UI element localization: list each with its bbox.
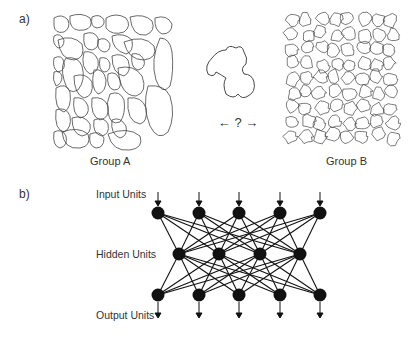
network-node xyxy=(274,207,287,220)
input-units-label: Input Units xyxy=(96,188,146,200)
output-units-label: Output Units xyxy=(96,309,154,321)
group-a-blobs xyxy=(50,14,175,150)
network-node xyxy=(152,207,165,220)
network-node xyxy=(314,289,327,302)
network-node xyxy=(193,289,206,302)
network-node xyxy=(193,207,206,220)
network-node xyxy=(254,248,267,261)
diagram-canvas: ← ? → xyxy=(0,0,419,339)
network-node xyxy=(294,248,307,261)
panel-b-label: b) xyxy=(19,187,30,201)
network-node xyxy=(233,289,246,302)
query-shape xyxy=(207,46,255,97)
group-b-blobs xyxy=(283,12,401,146)
network-node xyxy=(152,289,165,302)
network-node xyxy=(274,289,287,302)
network-node xyxy=(173,248,186,261)
network-node xyxy=(233,207,246,220)
network-node xyxy=(314,207,327,220)
group-a-caption: Group A xyxy=(90,155,130,167)
network-node xyxy=(213,248,226,261)
query-arrows: ← ? → xyxy=(218,115,258,130)
hidden-units-label: Hidden Units xyxy=(96,248,156,260)
group-b-caption: Group B xyxy=(326,155,367,167)
